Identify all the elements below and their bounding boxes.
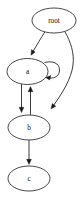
edge-root-to-b-arrowhead bbox=[51, 104, 56, 110]
edge-root-to-a bbox=[31, 32, 45, 56]
node-root-label: root bbox=[48, 17, 60, 25]
edge-root-to-a-arrowhead bbox=[31, 50, 35, 56]
graph-canvas: root a b c bbox=[0, 0, 82, 197]
edge-root-to-b bbox=[51, 32, 73, 109]
edge-b-to-a bbox=[28, 87, 33, 115]
edge-b-to-c-arrowhead bbox=[27, 159, 32, 164]
edge-a-to-b-arrowhead bbox=[19, 107, 24, 112]
edge-b-to-c bbox=[27, 140, 32, 164]
graph-diagram: root a b c bbox=[0, 0, 82, 197]
edge-layer bbox=[19, 32, 73, 165]
edge-a-to-b bbox=[19, 84, 24, 112]
edge-root-to-a-line bbox=[33, 32, 45, 52]
edge-b-to-a-arrowhead bbox=[28, 87, 33, 92]
node-b[interactable]: b bbox=[8, 115, 50, 140]
node-c-label: c bbox=[27, 175, 30, 183]
node-layer: root a b c bbox=[7, 8, 76, 191]
node-root[interactable]: root bbox=[32, 8, 76, 33]
node-a[interactable]: a bbox=[7, 59, 48, 85]
node-c[interactable]: c bbox=[8, 166, 50, 191]
edge-root-to-b-line bbox=[54, 32, 74, 106]
node-b-label: b bbox=[27, 124, 31, 132]
